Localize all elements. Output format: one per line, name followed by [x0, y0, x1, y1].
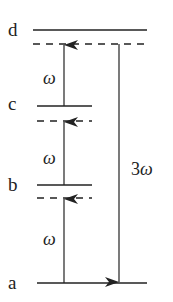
- level-label-a: a: [8, 272, 17, 293]
- level-label-d: d: [8, 19, 18, 40]
- transition-label-up3: ω: [43, 68, 56, 88]
- level-label-b: b: [8, 174, 18, 195]
- transition-label-down: 3ω: [131, 159, 153, 179]
- transition-label-up1: ω: [43, 229, 56, 249]
- level-label-c: c: [8, 93, 16, 114]
- transition-label-up2: ω: [43, 148, 56, 168]
- energy-level-diagram: d c b a ω ω ω 3ω: [0, 0, 173, 302]
